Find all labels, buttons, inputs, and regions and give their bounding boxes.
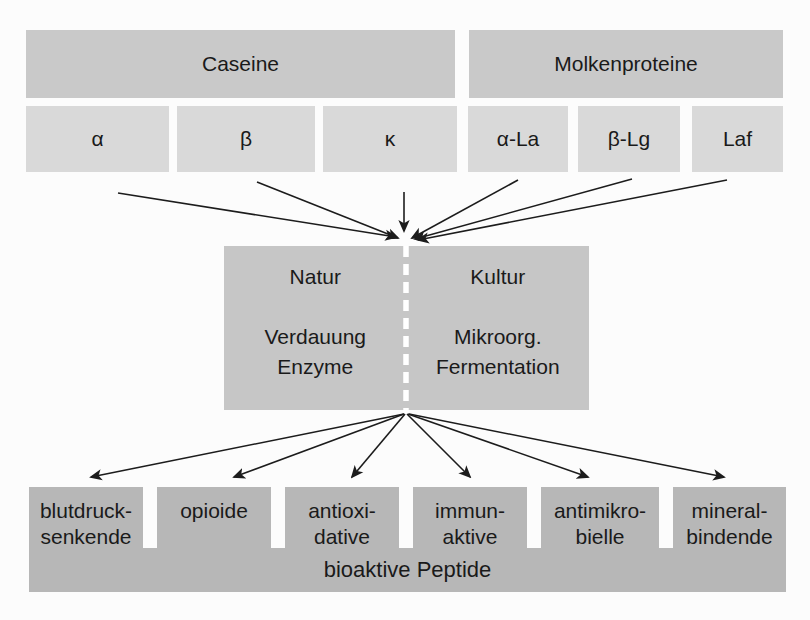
converging-arrows xyxy=(118,179,727,240)
milk-protein-peptide-diagram: Caseine Molkenproteine α β κ α-La β-Lg L… xyxy=(0,0,810,620)
diverging-arrows xyxy=(91,414,724,477)
arrows-overlay xyxy=(0,0,810,620)
